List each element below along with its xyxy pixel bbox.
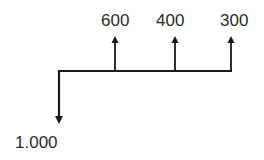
inflow-arrowhead-3 (228, 36, 235, 43)
outflow-label: 1.000 (15, 134, 58, 151)
inflow-label-3: 300 (220, 12, 248, 29)
inflow-arrowhead-1 (112, 36, 119, 43)
inflow-arrowhead-2 (172, 36, 179, 43)
outflow-arrowhead (55, 116, 63, 124)
inflow-label-1: 600 (101, 12, 129, 29)
inflow-label-2: 400 (156, 12, 184, 29)
